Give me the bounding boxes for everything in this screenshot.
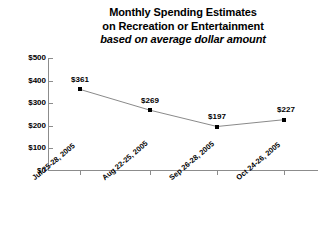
x-tick-2 [217, 171, 218, 175]
chart-title-line-3: based on average dollar amount [48, 33, 318, 47]
y-axis-label-400: $400 [2, 77, 46, 85]
chart-title-line-2: on Recreation or Entertainment [48, 20, 318, 34]
y-axis-label-500: $500 [2, 54, 46, 62]
data-label-3: $227 [277, 106, 295, 114]
x-tick-3 [284, 171, 285, 175]
plot-area: $361 $269 $197 $227 [48, 58, 318, 171]
data-point-2 [215, 125, 219, 129]
y-axis-label-100: $100 [2, 144, 46, 152]
chart-title-line-1: Monthly Spending Estimates [48, 6, 318, 20]
x-tick-0 [80, 171, 81, 175]
x-tick-1 [150, 171, 151, 175]
data-point-3 [282, 118, 286, 122]
data-point-0 [78, 87, 82, 91]
data-point-1 [148, 108, 152, 112]
data-label-1: $269 [141, 97, 159, 105]
chart-title: Monthly Spending Estimates on Recreation… [48, 6, 318, 47]
y-axis-label-200: $200 [2, 122, 46, 130]
y-axis-label-300: $300 [2, 99, 46, 107]
spending-line-chart: Monthly Spending Estimates on Recreation… [0, 0, 323, 250]
data-label-0: $361 [71, 76, 89, 84]
data-label-2: $197 [208, 113, 226, 121]
